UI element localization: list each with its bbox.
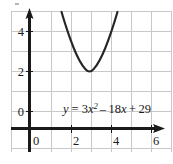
equation-term2-var: x [120,102,127,116]
equation-operator-plus: + [129,102,136,116]
parabola-figure: 4 2 0 0 2 4 6 y=3x2–18x+29 [0,0,173,164]
x-tick-label: 2 [73,134,79,148]
x-tick-label: 6 [153,134,159,148]
canvas-background [0,0,173,164]
x-tick-label: 0 [33,134,39,148]
equation-lhs: y [61,102,69,116]
equation-operator-minus: – [99,102,107,116]
equation-term2-coef: 18 [108,102,121,116]
x-tick-label: 4 [113,134,120,148]
y-tick-label: 4 [18,25,25,39]
graph-canvas: 4 2 0 0 2 4 6 y=3x2–18x+29 [0,0,173,164]
equation-term3: 29 [139,102,152,116]
y-tick-label: 0 [18,105,24,119]
y-tick-label: 2 [18,65,24,79]
scan-artifact [15,3,19,5]
equation-equals: = [72,102,79,116]
